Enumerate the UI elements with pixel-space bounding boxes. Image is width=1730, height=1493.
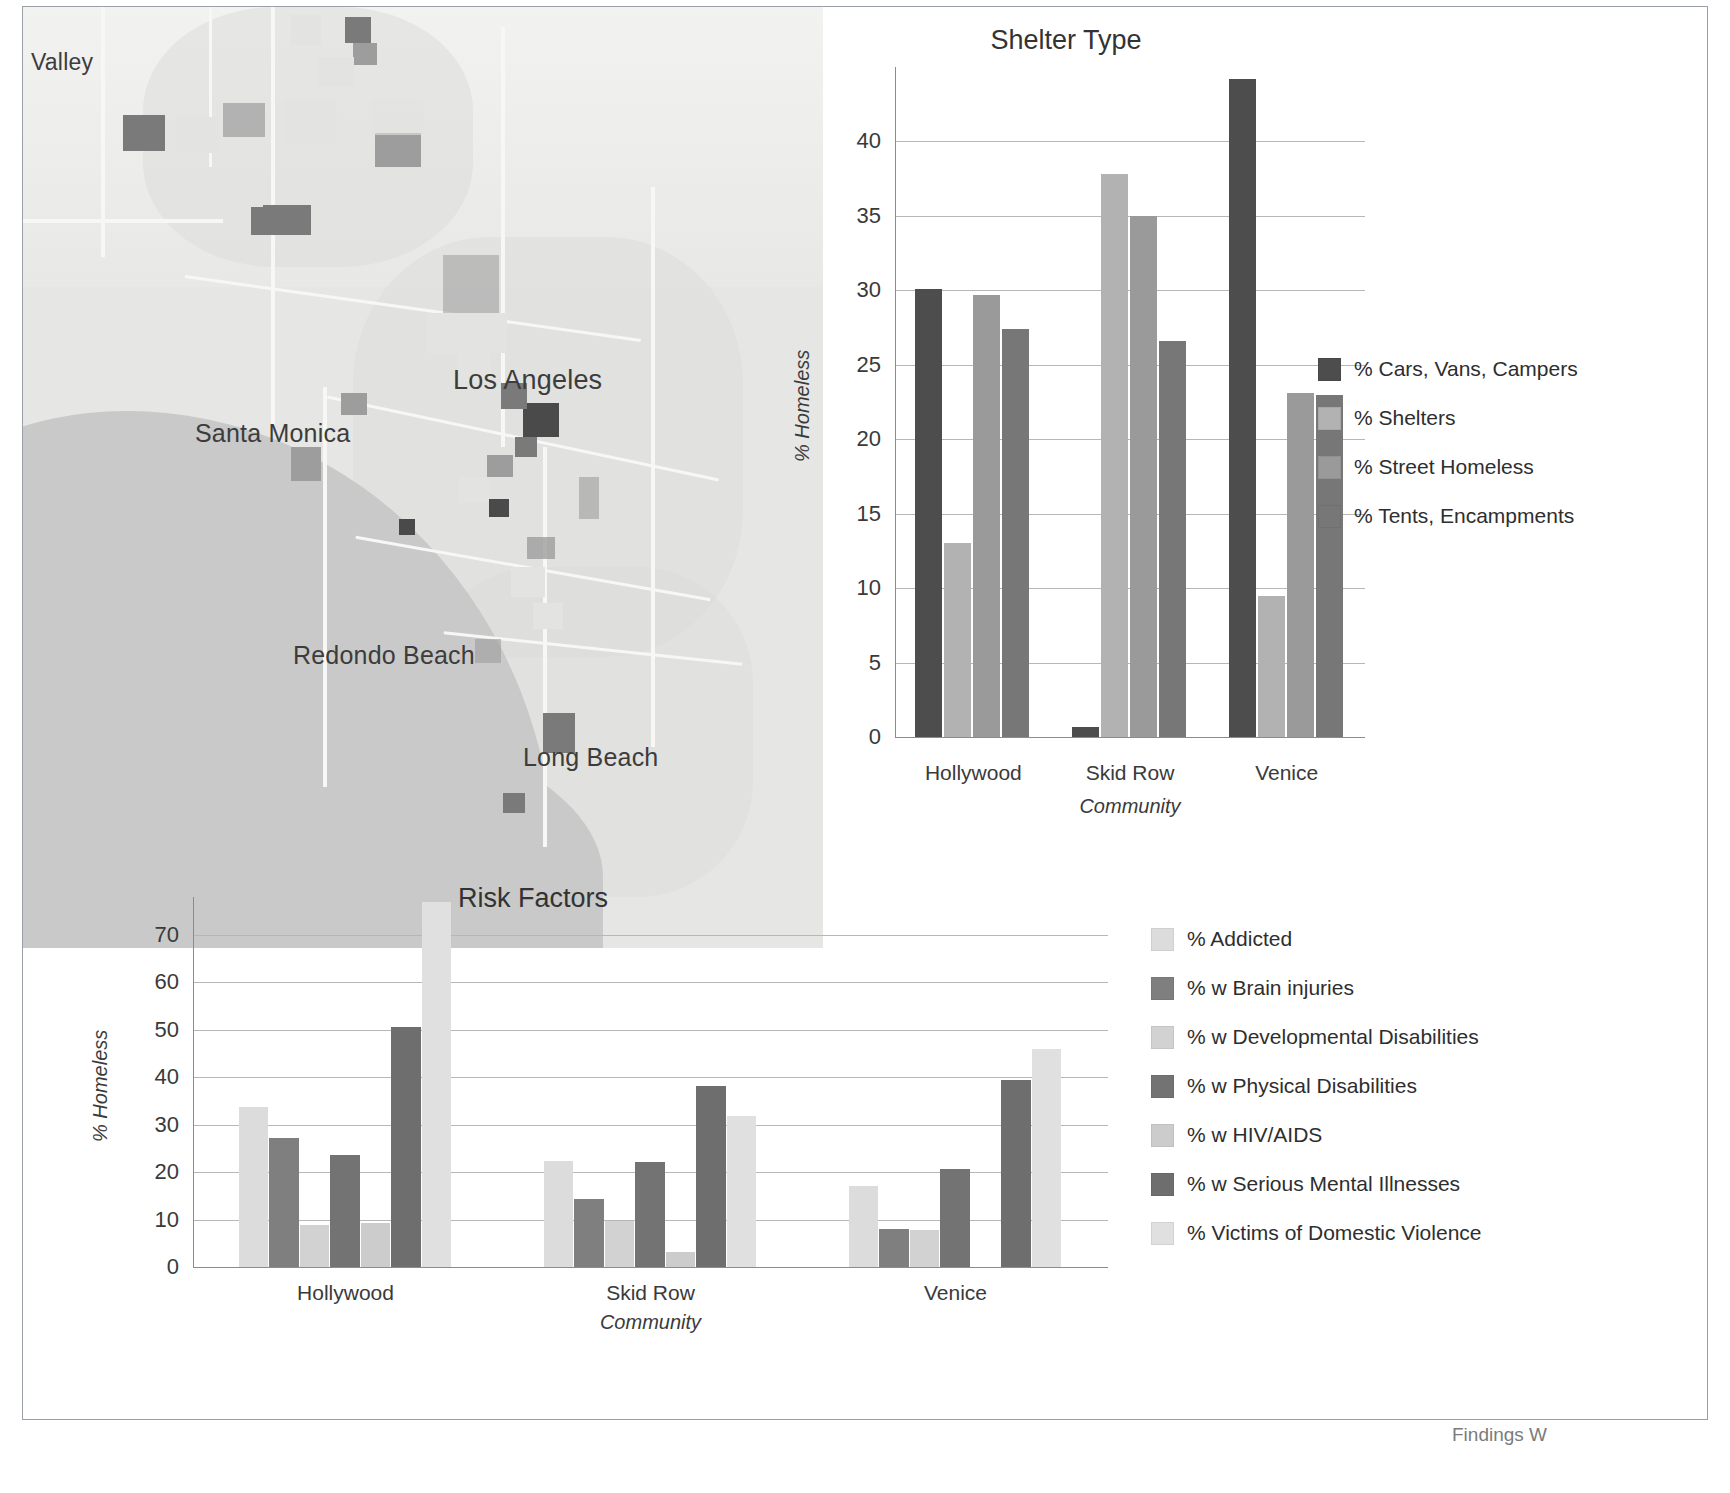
legend-item[interactable]: % Street Homeless [1318,455,1578,479]
legend-item[interactable]: % Cars, Vans, Campers [1318,357,1578,381]
bar[interactable] [1032,1049,1062,1267]
bar[interactable] [1002,329,1029,737]
legend-label: % Street Homeless [1354,455,1534,479]
bar[interactable] [544,1161,574,1267]
footer-partial-text: Findings W [1452,1424,1547,1446]
y-axis-tick-label: 0 [119,1254,179,1280]
map-tract [443,255,499,315]
bar[interactable] [574,1199,604,1267]
legend-item[interactable]: % Shelters [1318,406,1578,430]
bar[interactable] [1258,596,1285,737]
y-axis-title: % Homeless [791,350,814,462]
risk-legend: % Addicted% w Brain injuries% w Developm… [1151,927,1482,1270]
map-tract [285,99,337,145]
bar[interactable] [361,1223,391,1267]
legend-label: % Cars, Vans, Campers [1354,357,1578,381]
map-tract [487,455,513,477]
bar[interactable] [1001,1080,1031,1267]
map-label-los-angeles: Los Angeles [453,365,602,396]
bar[interactable] [1287,393,1314,737]
map-tract [399,519,415,535]
legend-label: % Shelters [1354,406,1456,430]
map-tract [203,167,263,207]
map-tract [515,437,537,457]
y-axis-tick-label: 10 [119,1207,179,1233]
risk-plot-area: 010203040506070% HomelessHollywoodSkid R… [193,897,1108,1267]
bar[interactable] [1101,174,1128,737]
figure-frame: Valley Los Angeles Santa Monica Redondo … [22,6,1708,1420]
x-axis-tick-label: Hollywood [297,1281,394,1305]
y-axis-tick-label: 20 [119,1159,179,1185]
map-panel[interactable]: Valley Los Angeles Santa Monica Redondo … [23,7,823,948]
legend-item[interactable]: % Tents, Encampments [1318,504,1578,528]
bar[interactable] [973,295,1000,737]
bar[interactable] [910,1230,940,1267]
bar[interactable] [696,1086,726,1267]
bar[interactable] [635,1162,665,1267]
legend-swatch-icon [1151,1173,1174,1196]
map-road [543,447,547,847]
bar[interactable] [1130,216,1157,737]
legend-item[interactable]: % Victims of Domestic Violence [1151,1221,1482,1245]
x-axis-title: Community [1079,795,1180,818]
legend-label: % Addicted [1187,927,1292,951]
bar[interactable] [391,1027,421,1267]
legend-label: % w Developmental Disabilities [1187,1025,1479,1049]
legend-item[interactable]: % w Physical Disabilities [1151,1074,1482,1098]
map-tract [251,205,311,235]
legend-swatch-icon [1318,358,1341,381]
legend-item[interactable]: % w Serious Mental Illnesses [1151,1172,1482,1196]
bar[interactable] [422,902,452,1267]
map-tract [323,187,383,237]
x-axis-tick-label: Venice [1255,761,1318,785]
legend-swatch-icon [1151,1222,1174,1245]
map-tract [345,17,371,43]
gridline [895,737,1365,738]
legend-item[interactable]: % Addicted [1151,927,1482,951]
legend-item[interactable]: % w Developmental Disabilities [1151,1025,1482,1049]
legend-swatch-icon [1318,505,1341,528]
bar[interactable] [727,1116,757,1267]
legend-label: % w Brain injuries [1187,976,1354,1000]
bar[interactable] [300,1225,330,1267]
legend-swatch-icon [1151,1026,1174,1049]
bar[interactable] [915,289,942,737]
shelter-type-chart[interactable]: Shelter Type 0510152025303540% HomelessH… [823,7,1709,887]
legend-item[interactable]: % w Brain injuries [1151,976,1482,1000]
risk-factors-chart[interactable]: Risk Factors 010203040506070% HomelessHo… [23,887,1709,1421]
legend-item[interactable]: % w HIV/AIDS [1151,1123,1482,1147]
legend-swatch-icon [1318,407,1341,430]
bar[interactable] [666,1252,696,1267]
bar[interactable] [269,1138,299,1268]
shelter-chart-title: Shelter Type [623,25,1509,56]
bar[interactable] [849,1186,879,1267]
bar[interactable] [330,1155,360,1267]
map-label-redondo-beach: Redondo Beach [293,641,475,670]
x-axis-tick-label: Venice [924,1281,987,1305]
y-axis-tick-label: 50 [119,1017,179,1043]
map-tract [353,43,377,65]
bar[interactable] [1229,79,1256,737]
map-tract [523,403,559,437]
y-axis-tick-label: 70 [119,922,179,948]
gridline [895,141,1365,142]
gridline [193,1125,1108,1126]
map-tract [427,313,507,353]
map-tract [375,133,421,167]
bar[interactable] [1072,727,1099,737]
map-tract [489,499,509,517]
bar[interactable] [605,1221,635,1267]
y-axis-tick-label: 35 [821,203,881,229]
gridline [193,1077,1108,1078]
map-tract [459,477,489,503]
y-axis-tick-label: 30 [821,277,881,303]
y-axis-tick-label: 60 [119,969,179,995]
bar[interactable] [1159,341,1186,737]
bar[interactable] [940,1169,970,1267]
bar[interactable] [944,543,971,737]
bar[interactable] [879,1229,909,1267]
bar[interactable] [239,1107,269,1267]
legend-swatch-icon [1151,1075,1174,1098]
map-tract [475,639,501,663]
map-label-santa-monica: Santa Monica [195,419,350,448]
